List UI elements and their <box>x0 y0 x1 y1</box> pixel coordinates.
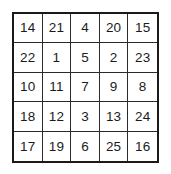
grid-cell: 23 <box>128 43 157 72</box>
grid-cell: 21 <box>43 14 72 43</box>
grid-cell: 20 <box>100 14 129 43</box>
grid-cell: 18 <box>14 102 43 131</box>
grid-cell: 24 <box>128 102 157 131</box>
grid-cell: 4 <box>71 14 100 43</box>
grid-cell: 25 <box>100 132 129 161</box>
grid-cell: 12 <box>43 102 72 131</box>
grid-cell: 2 <box>100 43 129 72</box>
grid-cell: 14 <box>14 14 43 43</box>
grid-cell: 3 <box>71 102 100 131</box>
number-grid: 14 21 4 20 15 22 1 5 2 23 10 11 7 9 8 18… <box>12 12 159 163</box>
grid-cell: 5 <box>71 43 100 72</box>
number-grid-canvas: 14 21 4 20 15 22 1 5 2 23 10 11 7 9 8 18… <box>0 0 171 174</box>
grid-cell: 19 <box>43 132 72 161</box>
grid-cell: 9 <box>100 73 129 102</box>
grid-cell: 7 <box>71 73 100 102</box>
grid-cell: 8 <box>128 73 157 102</box>
grid-cell: 17 <box>14 132 43 161</box>
grid-cell: 11 <box>43 73 72 102</box>
grid-cell: 1 <box>43 43 72 72</box>
grid-cell: 10 <box>14 73 43 102</box>
grid-cell: 6 <box>71 132 100 161</box>
grid-cell: 16 <box>128 132 157 161</box>
grid-cell: 13 <box>100 102 129 131</box>
grid-cell: 22 <box>14 43 43 72</box>
grid-cell: 15 <box>128 14 157 43</box>
